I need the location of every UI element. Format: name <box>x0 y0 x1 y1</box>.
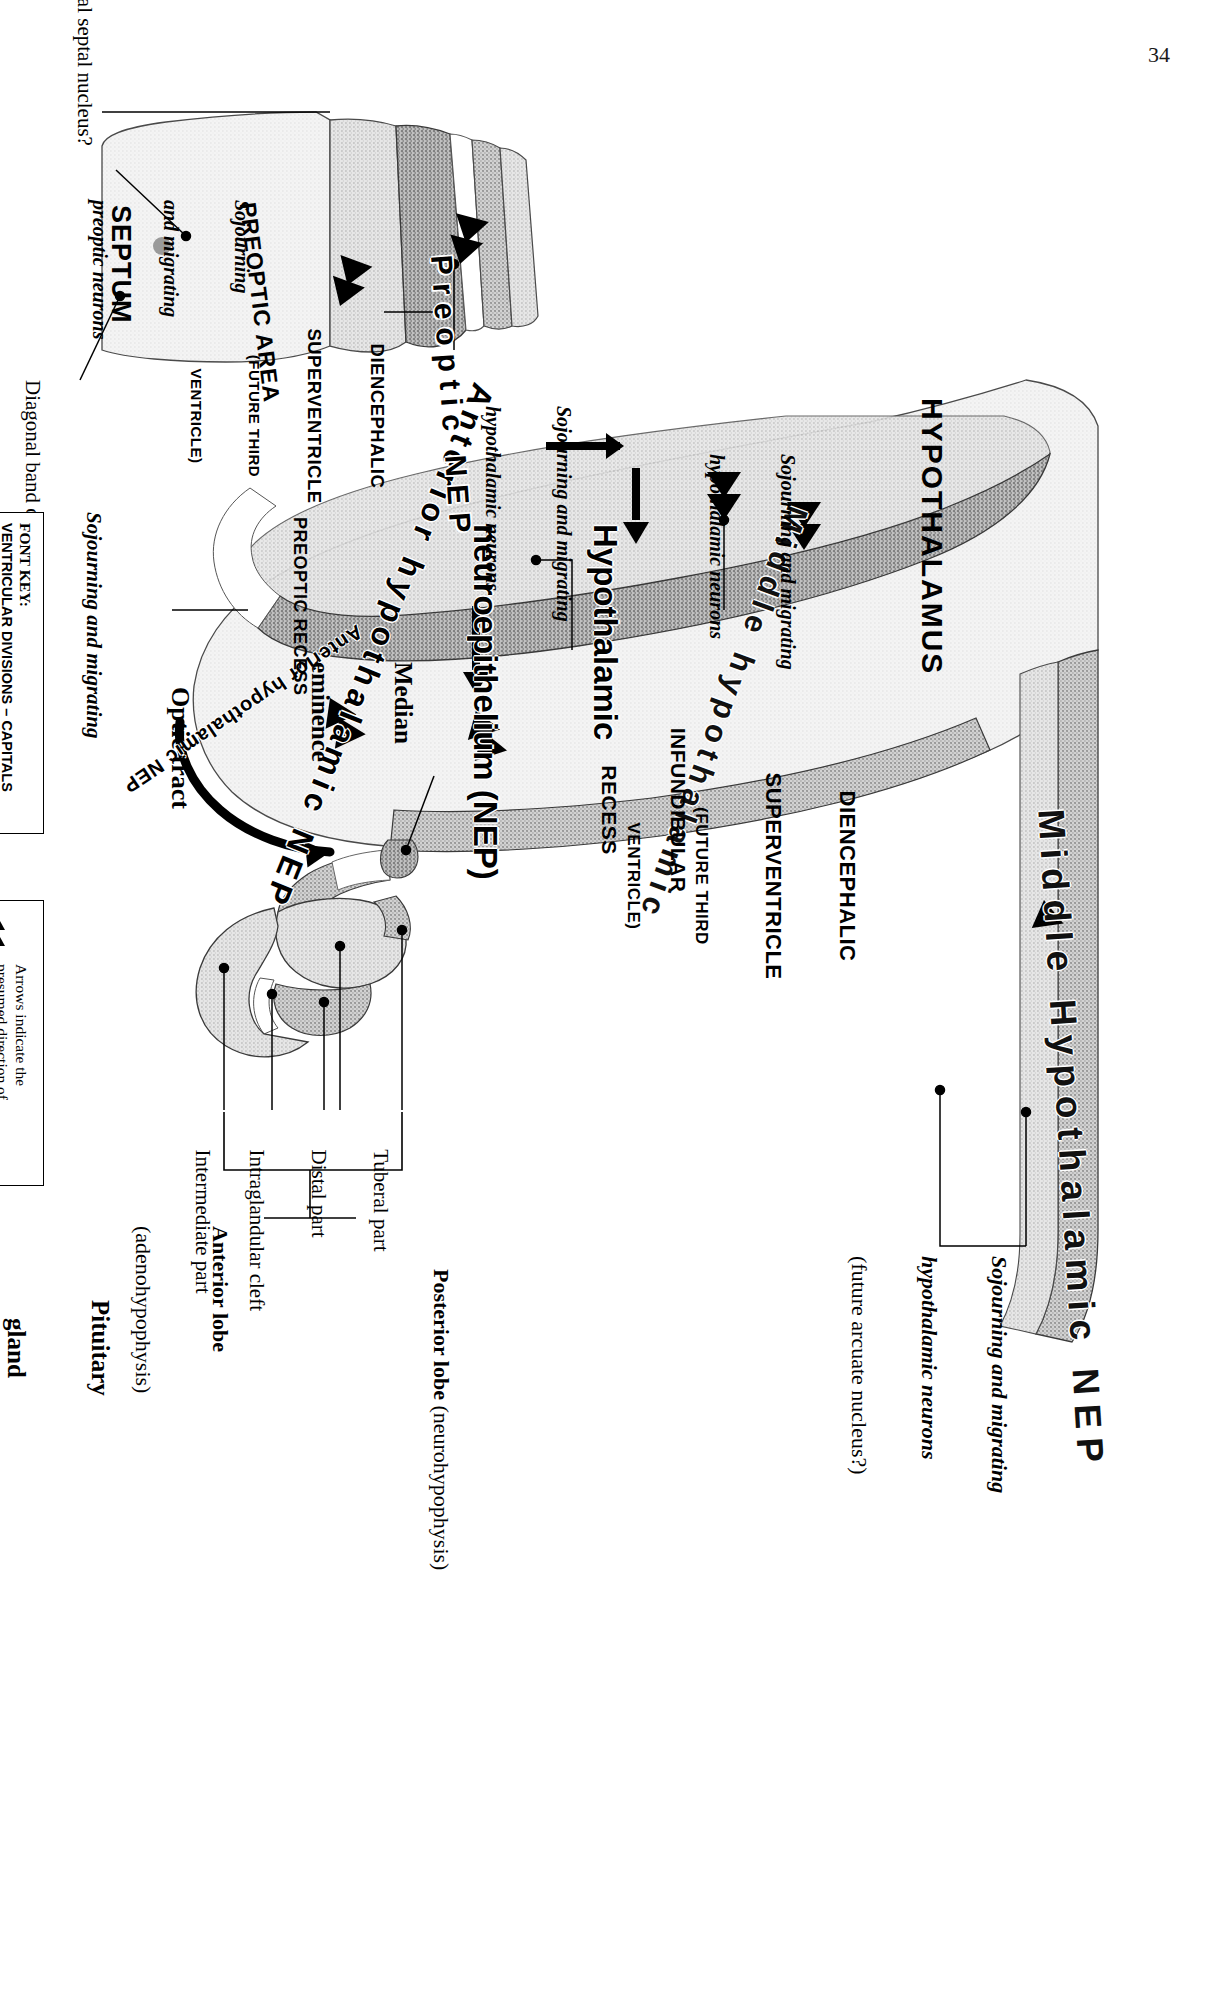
label-arcuate-neurons: Sojourning and migrating hypothalamic ne… <box>801 1256 1057 1493</box>
double-chevron-arrow-icon <box>0 910 7 956</box>
label-sojourning-hypothalamic-upper: Sojourning and migrating hypothalamic ne… <box>657 454 846 670</box>
font-key-box: FONT KEY: VENTRICULAR DIVISIONS – CAPITA… <box>0 512 44 834</box>
label-hypothalamus: HYPOTHALAMUS <box>884 336 979 675</box>
label-optic-tract: Optic tract <box>139 648 222 809</box>
dsv1-line1: DIENCEPHALIC <box>834 772 859 979</box>
soj-mid-1: Sojourning and migrating <box>551 406 575 622</box>
dsv2-line3: (FUTURE THIRD <box>245 328 262 503</box>
posterior-lobe-paren: (neurohypophysis) <box>428 1400 453 1570</box>
label-posterior-lobe: Posterior lobe (neurohypophysis) <box>406 1236 476 1570</box>
me-1: Median <box>389 662 417 762</box>
dsv2-line2: SUPERVENTRICLE <box>303 328 324 503</box>
label-pituitary-gland: Pituitary gland <box>0 1300 170 1396</box>
me-2: eminence <box>307 662 335 762</box>
pit-1: Pituitary <box>86 1300 114 1396</box>
dsv2-line4: VENTRICLE) <box>187 328 204 503</box>
label-median-eminence: Median eminence <box>252 662 472 762</box>
label-tuberal-part: Tuberal part <box>347 1118 414 1252</box>
figure-plate: Middle Hypothalamic NEP Sojourning and m… <box>36 50 1176 1950</box>
inf-rec-1: INFUNDIBULAR <box>666 728 689 893</box>
label-medial-septal-nucleus: Medial septal nucleus? <box>51 0 118 146</box>
label-septum: SEPTUM <box>78 154 164 324</box>
font-key-title: FONT KEY: <box>15 523 34 823</box>
akm-l0: Arrows indicate the <box>10 964 29 1111</box>
label-distal-part: Distal part <box>285 1118 352 1238</box>
anterior-lobe-bold: Anterior lobe <box>207 1226 233 1393</box>
posterior-lobe-bold: Posterior lobe <box>428 1269 453 1400</box>
soj-up-2: hypothalamic neurons <box>704 454 728 670</box>
arcuate-line2: hypothalamic neurons <box>918 1256 941 1493</box>
label-infundibular-recess: INFUNDIBULAR RECESS <box>551 728 736 893</box>
soj-up-1: Sojourning and migrating <box>775 454 799 670</box>
inf-rec-2: RECESS <box>597 728 620 893</box>
arcuate-line3: (future arcuate nucleus?) <box>848 1256 871 1493</box>
arrow-key-neuron-migration: Arrows indicate the presumed direction o… <box>0 900 44 1186</box>
dsv1-line2: SUPERVENTRICLE <box>760 772 785 979</box>
label-diencephalic-superventricle-lower: DIENCEPHALIC SUPERVENTRICLE (FUTURE THIR… <box>145 328 427 503</box>
akm-l1: presumed direction of <box>0 964 10 1111</box>
atlas-page: 34 <box>0 0 1211 2000</box>
dsv2-line1: DIENCEPHALIC <box>365 328 386 503</box>
arcuate-line1: Sojourning and migrating <box>988 1256 1011 1493</box>
pit-2: gland <box>2 1300 30 1396</box>
arrow-key-neuron-migration-text: Arrows indicate the presumed direction o… <box>0 964 29 1111</box>
font-key-row-0: VENTRICULAR DIVISIONS – CAPITALS <box>0 523 15 823</box>
